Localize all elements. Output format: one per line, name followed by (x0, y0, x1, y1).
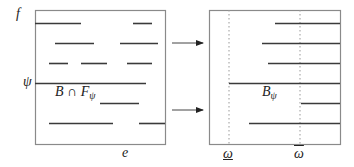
label-b-psi: Bψ (262, 85, 277, 101)
left-box-frame (36, 11, 166, 145)
label-b-intersect-f-psi: B ∩ Fψ (55, 85, 95, 101)
label-omega-lower: ω (223, 147, 233, 161)
mapping-arrows (172, 43, 203, 110)
left-box-fiber-family (35, 11, 166, 145)
label-omega-upper: ω (294, 147, 304, 161)
label-b-intersect-f-main: B ∩ F (55, 84, 89, 99)
right-box-b-psi (210, 10, 341, 145)
label-b-psi-sub: ψ (271, 90, 277, 101)
label-b-intersect-f-sub: ψ (89, 90, 95, 101)
label-b-psi-main: B (262, 84, 271, 99)
diagram-canvas (0, 0, 354, 167)
row-label-psi: ψ (23, 75, 32, 89)
axis-label-e: e (122, 146, 128, 160)
axis-label-f: f (16, 7, 20, 21)
